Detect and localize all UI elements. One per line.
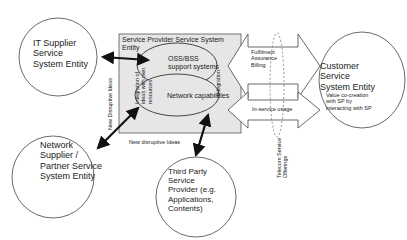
customer-label: Customer Service System Entity — [320, 61, 375, 92]
assurance-label: Assurance — [251, 55, 277, 61]
oss-bss-label: OSS/BSS support systems — [168, 55, 219, 71]
provider-box-title: Service Provider Service System Entity — [122, 36, 224, 52]
integration-own-line2: ideas with own — [140, 68, 146, 104]
third-party-line1: Third Party — [168, 167, 216, 176]
it-supplier-line1: IT Supplier — [33, 38, 88, 48]
telecom-offerings-line2: Offerings — [282, 138, 288, 178]
network-supplier-line3: Partner Service — [40, 161, 102, 171]
provider-title-line2: Entity — [122, 44, 224, 52]
fulfillment-assurance-billing-label: Fulfilment Assurance Billing — [251, 49, 277, 68]
integration-label: Integration — [215, 70, 221, 96]
new-disruptive-ideas-vertical: New Disruptive Ideas — [107, 78, 113, 130]
customer-note: Value co-creation with SP by interacting… — [326, 92, 372, 111]
integration-own-line3: resources — [147, 68, 153, 104]
in-service-usage-label: In-service usage — [252, 106, 292, 112]
billing-label: Billing — [251, 62, 277, 68]
third-party-line3: Provider (e.g. — [168, 185, 216, 194]
network-supplier-line1: Network — [40, 140, 102, 150]
provider-title-line1: Service Provider Service System — [122, 36, 224, 44]
customer-note-line3: interacting with SP — [326, 105, 372, 111]
third-party-line5: Contents) — [168, 204, 216, 213]
it-supplier-label: IT Supplier Service System Entity — [33, 38, 88, 69]
customer-line2: Service — [320, 71, 375, 81]
customer-line1: Customer — [320, 61, 375, 71]
network-supplier-label: Network Supplier / Partner Service Syste… — [40, 140, 102, 181]
network-supplier-line2: Supplier / — [40, 150, 102, 160]
telecom-offerings-label: Telecom Service Offerings — [276, 138, 289, 178]
oss-bss-line2: support systems — [168, 63, 219, 71]
third-party-line4: Applications, — [168, 195, 216, 204]
network-supplier-line4: System Entity — [40, 171, 102, 181]
it-supplier-line3: System Entity — [33, 59, 88, 69]
oss-bss-line1: OSS/BSS — [168, 55, 219, 63]
new-disruptive-ideas-horizontal: New disruptive Ideas — [129, 139, 180, 145]
integration-own-resources-label: Integration of ideas with own resources — [134, 68, 153, 104]
it-supplier-line2: Service — [33, 48, 88, 58]
third-party-line2: Service — [168, 176, 216, 185]
third-party-label: Third Party Service Provider (e.g. Appli… — [168, 167, 216, 213]
customer-line3: System Entity — [320, 82, 375, 92]
